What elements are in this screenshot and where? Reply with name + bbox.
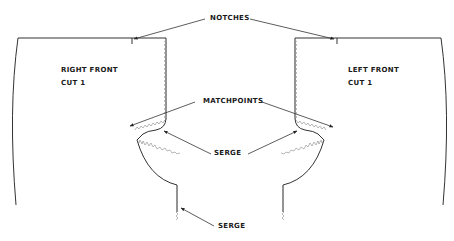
serge-stitch-left-lower-curve: [281, 140, 324, 154]
serge-leader-right: [248, 131, 297, 154]
notches-leader-left: [134, 19, 205, 39]
pattern-diagram: [0, 0, 454, 241]
right-front-name: RIGHT FRONT: [61, 67, 118, 74]
serge-bottom-leader: [181, 208, 214, 226]
serge-leader-left: [164, 131, 211, 154]
serge-stitch-right-bottom: [176, 186, 178, 220]
left-front-name: LEFT FRONT: [348, 67, 399, 74]
right-front-cut: CUT 1: [61, 80, 85, 87]
serge-bottom-label: SERGE: [218, 223, 245, 230]
serge-middle-label: SERGE: [214, 150, 241, 157]
serge-stitch-left-bottom: [282, 186, 284, 220]
notches-label: NOTCHES: [210, 15, 250, 22]
matchpoints-leader-right: [262, 102, 333, 127]
serge-stitch-right-lower-curve: [137, 140, 180, 154]
right-front-outline: [12, 38, 177, 212]
left-front-outline: [283, 38, 447, 212]
matchpoints-label: MATCHPOINTS: [203, 98, 263, 105]
notches-leader-right: [250, 19, 334, 39]
left-front-cut: CUT 1: [348, 80, 372, 87]
